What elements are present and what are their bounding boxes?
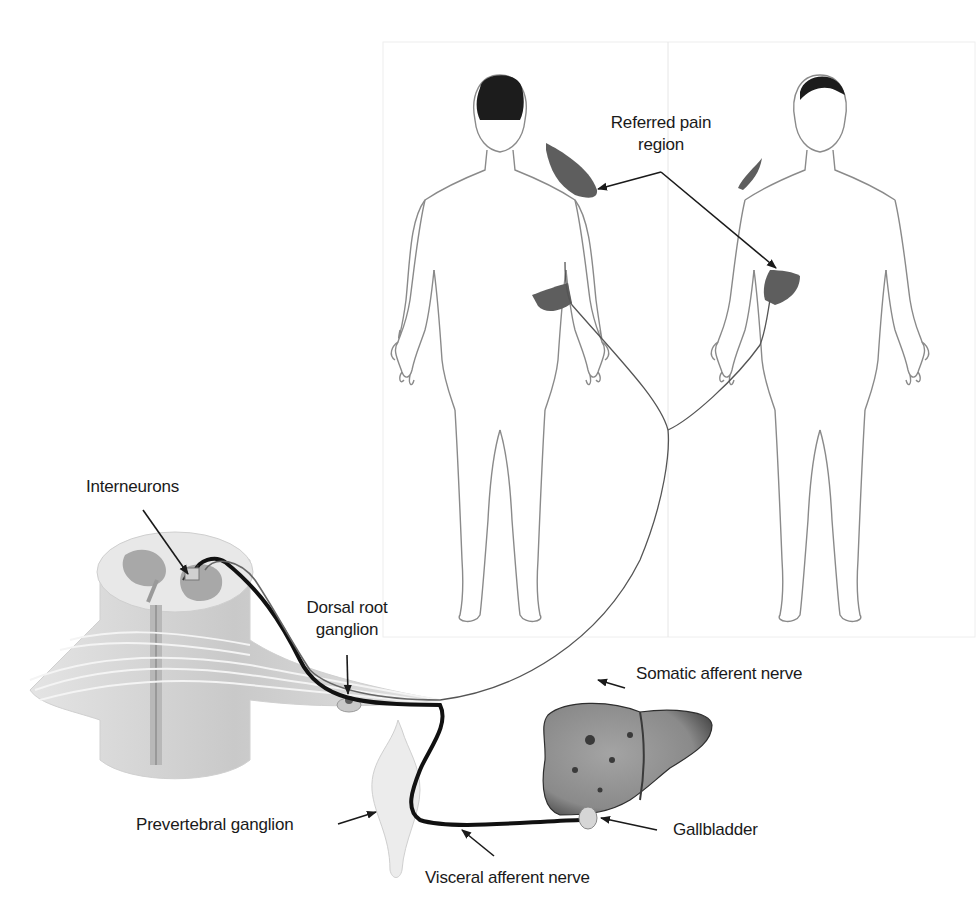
dorsal-root-ganglion-label: Dorsal root ganglion bbox=[282, 597, 412, 641]
dorsal-root-ganglion-line2: ganglion bbox=[282, 619, 412, 641]
referred-pain-region-line1: Referred pain bbox=[591, 112, 731, 134]
referred-pain-diagram: Referred pain region Interneurons Dorsal… bbox=[0, 0, 977, 904]
gallbladder bbox=[579, 807, 597, 829]
gallbladder-label: Gallbladder bbox=[673, 819, 758, 841]
liver bbox=[543, 703, 712, 815]
visceral-afferent-nerve-label: Visceral afferent nerve bbox=[425, 867, 590, 889]
dorsal-root-ganglion-line1: Dorsal root bbox=[282, 597, 412, 619]
somatic-afferent-nerve-label: Somatic afferent nerve bbox=[636, 663, 802, 685]
referred-pain-region-label: Referred pain region bbox=[591, 112, 731, 156]
back-view-hair bbox=[477, 75, 524, 120]
referred-pain-region-line2: region bbox=[591, 134, 731, 156]
prevertebral-ganglion-label: Prevertebral ganglion bbox=[136, 814, 293, 836]
interneurons-label: Interneurons bbox=[86, 476, 179, 498]
diagram-artwork bbox=[0, 0, 977, 904]
